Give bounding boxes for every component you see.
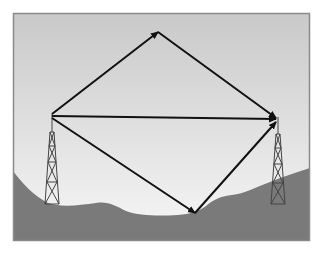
- propagation-diagram: [0, 0, 324, 256]
- diagram-svg: [0, 0, 324, 256]
